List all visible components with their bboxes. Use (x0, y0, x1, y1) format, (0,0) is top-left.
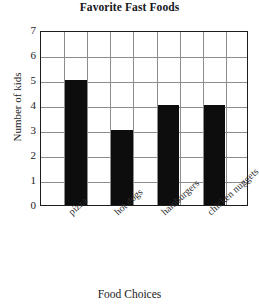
bars-layer (41, 32, 247, 205)
chart-title: Favorite Fast Foods (0, 1, 259, 13)
bar (158, 105, 180, 205)
x-axis-category-labels: pizzahot dogshamburgerschicken nuggets (0, 206, 259, 268)
y-axis-tick-labels: 76543210 (19, 31, 36, 206)
bar (65, 80, 87, 205)
y-tick-label: 7 (19, 25, 36, 36)
y-tick-label: 1 (19, 175, 36, 186)
x-axis-title: Food Choices (0, 288, 259, 300)
y-tick-label: 5 (19, 75, 36, 86)
plot-area (40, 31, 248, 206)
y-tick-label: 6 (19, 50, 36, 61)
y-tick-label: 3 (19, 125, 36, 136)
y-tick-label: 4 (19, 100, 36, 111)
bar (204, 105, 226, 205)
y-tick-label: 2 (19, 150, 36, 161)
